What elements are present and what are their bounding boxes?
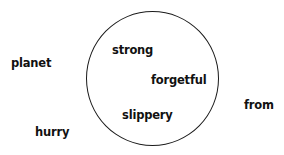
word-forgetful: forgetful <box>151 73 206 87</box>
word-from: from <box>244 98 274 112</box>
word-slippery: slippery <box>122 108 173 122</box>
word-hurry: hurry <box>35 125 69 139</box>
word-sort-diagram: strong forgetful slippery planet hurry f… <box>0 0 284 155</box>
word-planet: planet <box>11 56 51 70</box>
word-strong: strong <box>112 43 153 57</box>
